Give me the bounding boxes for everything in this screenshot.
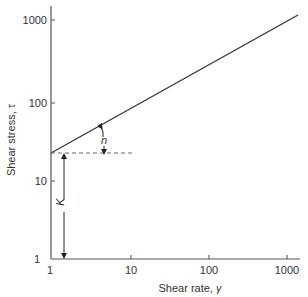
- chart: 1 10 100 1000 1 10 100 1000 Shear rate, …: [0, 0, 308, 297]
- n-label: n: [101, 134, 107, 146]
- svg-text:1: 1: [47, 264, 53, 276]
- svg-text:1000: 1000: [275, 264, 299, 276]
- svg-text:1: 1: [34, 253, 40, 265]
- y-tick-labels: 1 10 100 1000: [23, 14, 47, 265]
- svg-text:100: 100: [200, 264, 218, 276]
- svg-text:100: 100: [29, 97, 47, 109]
- power-law-line: [51, 15, 298, 153]
- k-label: K: [54, 198, 66, 206]
- x-axis-label: Shear rate, γ: [159, 282, 223, 294]
- svg-text:10: 10: [35, 175, 47, 187]
- x-tick-labels: 1 10 100 1000: [47, 264, 299, 276]
- svg-text:10: 10: [125, 264, 137, 276]
- y-axis-label: Shear stress, τ: [5, 103, 17, 176]
- svg-text:1000: 1000: [23, 14, 47, 26]
